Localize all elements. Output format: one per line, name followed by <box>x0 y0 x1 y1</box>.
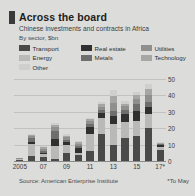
bar-segment <box>28 156 35 161</box>
stacked-bar[interactable] <box>145 84 152 161</box>
bar-slot <box>108 79 120 161</box>
legend-swatch-icon <box>19 55 30 61</box>
bar-slot <box>131 79 143 161</box>
bar-segment <box>110 96 117 103</box>
legend-item-other[interactable]: Other <box>19 63 81 71</box>
legend-item-label: Technology <box>155 54 186 61</box>
bar-segment <box>133 104 140 111</box>
bar-slot <box>154 79 166 161</box>
legend-swatch-icon <box>81 55 92 61</box>
stacked-bar[interactable] <box>63 134 70 161</box>
bar-segment <box>16 160 23 161</box>
bar-segment <box>75 155 82 161</box>
stacked-bar[interactable] <box>28 134 35 161</box>
bar-segment <box>51 146 58 158</box>
bar-segment <box>157 150 164 161</box>
bar-slot <box>61 79 73 161</box>
x-axis-tick-label: 17* <box>155 163 165 170</box>
legend-item-label: Utilities <box>155 45 175 52</box>
bar-segment <box>40 157 47 161</box>
y-axis-tick-label: 20 <box>168 125 175 132</box>
bar-segment <box>63 153 70 161</box>
bar-slot <box>119 79 131 161</box>
chart-legend: TransportReal estateUtilitiesEnergyMetal… <box>19 44 191 73</box>
bar-segment <box>110 145 117 161</box>
gridline <box>14 161 166 162</box>
stacked-bar[interactable] <box>51 123 58 161</box>
bar-segment <box>110 116 117 124</box>
legend-item-technology[interactable]: Technology <box>141 54 191 62</box>
x-axis-tick-label: 07 <box>40 163 47 170</box>
legend-item-label: Real estate <box>95 45 126 52</box>
bar-segment <box>145 107 152 114</box>
bar-segment <box>145 95 152 102</box>
legend-item-label: Transport <box>33 45 59 52</box>
bar-segment <box>121 122 128 138</box>
bar-segment <box>145 128 152 161</box>
y-axis-tick-label: 30 <box>168 108 175 115</box>
legend-item-label: Other <box>33 64 48 71</box>
chart-subtitle: Chinese investments and contracts in Afr… <box>19 25 149 32</box>
y-axis-tick-label: 10 <box>168 141 175 148</box>
bar-segment <box>121 114 128 122</box>
bar-segment <box>51 131 58 139</box>
bar-slot <box>96 79 108 161</box>
bar-slot <box>84 79 96 161</box>
bar-segment <box>51 139 58 146</box>
legend-swatch-icon <box>141 45 152 51</box>
bar-segment <box>98 134 105 161</box>
bar-segment <box>133 136 140 161</box>
page-title: Across the board <box>19 11 107 23</box>
stacked-bar[interactable] <box>75 141 82 161</box>
stacked-bar[interactable] <box>40 146 47 161</box>
chart-card: Across the board Chinese investments and… <box>0 0 195 196</box>
stacked-bar[interactable] <box>133 92 140 161</box>
bar-segment <box>51 159 58 161</box>
stacked-bar[interactable] <box>16 158 23 161</box>
legend-item-real-estate[interactable]: Real estate <box>81 44 141 52</box>
stacked-bar[interactable] <box>98 102 105 161</box>
stacked-bar[interactable] <box>121 101 128 161</box>
x-axis-tick-label: 15 <box>133 163 140 170</box>
source-label: Source: American Enterprise Institute <box>19 178 118 184</box>
bar-segment <box>110 124 117 145</box>
legend-item-transport[interactable]: Transport <box>19 44 81 52</box>
x-axis-tick-label: 13 <box>110 163 117 170</box>
bar-segment <box>110 103 117 111</box>
bar-segment <box>63 145 70 154</box>
bar-slot <box>49 79 61 161</box>
bar-slot <box>143 79 155 161</box>
legend-item-utilities[interactable]: Utilities <box>141 44 191 52</box>
x-axis-tick-label: 09 <box>63 163 70 170</box>
y-axis-tick-label: 40 <box>168 92 175 99</box>
stacked-bar[interactable] <box>110 90 117 161</box>
bar-slot <box>26 79 38 161</box>
y-axis-tick-label: 50 <box>168 76 175 83</box>
bar-segment <box>133 111 140 120</box>
bar-segment <box>86 134 93 151</box>
bar-slot <box>37 79 49 161</box>
footnote-label: *To May <box>167 178 189 184</box>
legend-item-label: Metals <box>95 54 113 61</box>
legend-item-label: Energy <box>33 54 53 61</box>
bar-segment <box>98 118 105 134</box>
bar-group <box>14 79 166 161</box>
x-axis-labels: 2005070911131517* <box>14 163 166 173</box>
legend-item-metals[interactable]: Metals <box>81 54 141 62</box>
bar-slot <box>14 79 26 161</box>
bar-segment <box>28 144 35 156</box>
brand-marker <box>9 11 15 24</box>
x-axis-tick-label: 2005 <box>13 163 27 170</box>
stacked-bar[interactable] <box>157 142 164 161</box>
legend-item-energy[interactable]: Energy <box>19 54 81 62</box>
plot-area <box>14 79 166 161</box>
bar-segment <box>121 138 128 161</box>
chart-units-label: By sector, $bn <box>19 34 58 41</box>
bar-slot <box>72 79 84 161</box>
stacked-bar[interactable] <box>86 118 93 161</box>
bar-segment <box>145 114 152 128</box>
legend-swatch-icon <box>81 45 92 51</box>
legend-swatch-icon <box>19 45 30 51</box>
legend-swatch-icon <box>141 55 152 61</box>
bar-segment <box>86 151 93 161</box>
